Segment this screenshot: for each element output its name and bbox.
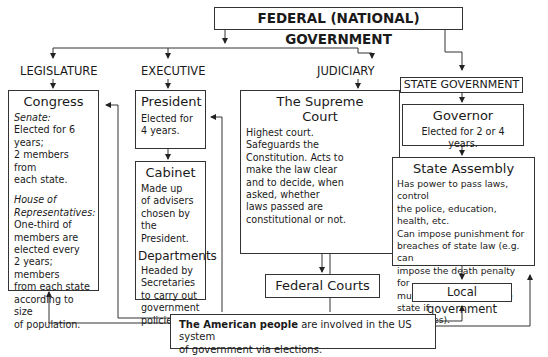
state-assembly-box: State Assembly Has power to pass laws, c…: [392, 157, 535, 266]
federal-courts-title: Federal Courts: [266, 275, 379, 297]
congress-box: Congress Senate: Elected for 6 years; 2 …: [8, 90, 99, 291]
state-assembly-line: Has power to pass laws, control: [397, 178, 530, 203]
supreme-court-box: The Supreme Court Highest court. Safegua…: [240, 90, 400, 254]
senate-line: years;: [14, 137, 93, 149]
local-government-box: Local government: [412, 283, 512, 302]
supreme-court-line: make the law clear: [246, 164, 394, 176]
house-label: Representatives:: [14, 207, 93, 219]
house-label: House of: [14, 194, 93, 206]
supreme-court-title: The Supreme: [246, 94, 394, 109]
federal-government-box: FEDERAL (NATIONAL) GOVERNMENT: [214, 7, 463, 30]
american-people-line2: of government via elections.: [179, 344, 427, 356]
senate-line: 2 members from: [14, 149, 93, 174]
supreme-court-line: asked, whether: [246, 189, 394, 201]
federal-courts-box: Federal Courts: [265, 274, 380, 298]
governor-line: Elected for 2 or 4 years.: [407, 126, 519, 151]
federal-government-title: FEDERAL (NATIONAL) GOVERNMENT: [215, 8, 462, 50]
state-assembly-line: Can impose punishment for: [397, 228, 530, 240]
supreme-court-line: Constitution. Acts to: [246, 152, 394, 164]
supreme-court-line: constitutional or not.: [246, 214, 394, 226]
supreme-court-line: and to decide, when: [246, 177, 394, 189]
local-government-title: Local government: [413, 284, 511, 318]
supreme-court-line: Highest court.: [246, 127, 394, 139]
departments-title: Departments: [138, 249, 200, 263]
american-people-bold: The American people: [179, 319, 298, 330]
departments-line: government: [141, 302, 200, 314]
supreme-court-line: Safeguards the: [246, 139, 394, 151]
state-assembly-line: breaches of state law (e.g. can: [397, 240, 530, 265]
departments-line: to carry out: [141, 290, 200, 302]
congress-title: Congress: [14, 94, 93, 109]
american-people-box: The American people are involved in the …: [170, 314, 436, 349]
legislature-label: LEGISLATURE: [20, 64, 98, 78]
senate-line: Elected for 6: [14, 124, 93, 136]
president-line: 4 years.: [141, 125, 200, 137]
cabinet-line: chosen by: [141, 208, 200, 220]
supreme-court-line: laws passed are: [246, 201, 394, 213]
president-line: Elected for: [141, 113, 200, 125]
state-government-box: STATE GOVERNMENT: [400, 77, 523, 93]
judiciary-label: JUDICIARY: [317, 64, 375, 78]
cabinet-line: Made up: [141, 183, 200, 195]
governor-box: Governor Elected for 2 or 4 years.: [402, 104, 524, 146]
president-title: President: [141, 94, 200, 109]
executive-label: EXECUTIVE: [141, 64, 205, 78]
cabinet-title: Cabinet: [141, 165, 200, 180]
house-line: One-third of: [14, 219, 93, 231]
state-assembly-line: the police, education, health, etc.: [397, 203, 530, 228]
departments-line: Headed by: [141, 265, 200, 277]
cabinet-line: the President.: [141, 220, 200, 245]
state-assembly-title: State Assembly: [397, 161, 530, 176]
house-line: of population.: [14, 319, 93, 331]
house-line: according to size: [14, 294, 93, 319]
president-box: President Elected for 4 years.: [135, 90, 206, 149]
cabinet-line: of advisers: [141, 195, 200, 207]
supreme-court-title: Court: [246, 109, 394, 124]
cabinet-box: Cabinet Made up of advisers chosen by th…: [135, 161, 206, 300]
departments-line: Secretaries: [141, 277, 200, 289]
governor-title: Governor: [407, 108, 519, 123]
house-line: elected every: [14, 244, 93, 256]
house-line: 2 years; members: [14, 256, 93, 281]
state-government-label: STATE GOVERNMENT: [401, 78, 522, 92]
senate-label: Senate:: [14, 112, 93, 124]
house-line: from each state: [14, 281, 93, 293]
senate-line: each state.: [14, 174, 93, 186]
house-line: members are: [14, 232, 93, 244]
american-people-line1: The American people are involved in the …: [179, 319, 427, 344]
